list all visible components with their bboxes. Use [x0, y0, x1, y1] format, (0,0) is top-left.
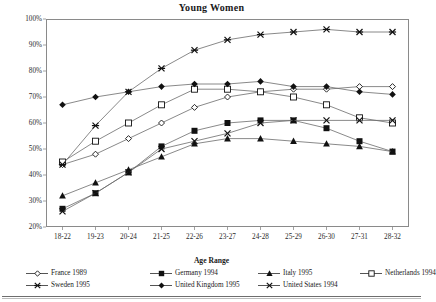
- legend-label: France 1989: [51, 269, 87, 278]
- legend-marker-filled-triangle-icon: [258, 269, 280, 278]
- legend-label: Germany 1994: [175, 269, 218, 278]
- legend-label: Netherlands 1994: [385, 269, 436, 278]
- y-tick-label: 70%: [0, 93, 42, 101]
- legend-label: United Kingdom 1995: [175, 281, 240, 290]
- y-tick-label: 100%: [0, 15, 42, 23]
- legend-marker-filled-square-icon: [150, 269, 172, 278]
- footer-rule: [2, 296, 421, 297]
- legend-label: United States 1994: [283, 281, 338, 290]
- legend-item-germany-1994[interactable]: Germany 1994: [150, 268, 218, 279]
- y-tick-label: 60%: [0, 119, 42, 127]
- y-tick-label: 50%: [0, 145, 42, 153]
- y-tick-label: 80%: [0, 67, 42, 75]
- legend-marker-open-square-icon: [360, 269, 382, 278]
- y-tick-label: 40%: [0, 171, 42, 179]
- legend-marker-x-cross-icon: [258, 281, 280, 290]
- x-axis-title: Age Range: [0, 256, 423, 265]
- legend-label: Sweden 1995: [51, 281, 90, 290]
- legend-item-united-kingdom-1995[interactable]: United Kingdom 1995: [150, 280, 240, 291]
- legend-item-united-states-1994[interactable]: United States 1994: [258, 280, 338, 291]
- legend-item-italy-1995[interactable]: Italy 1995: [258, 268, 312, 279]
- series-italy-1995: [59, 135, 396, 199]
- legend-item-france-1989[interactable]: France 1989: [26, 268, 87, 279]
- legend-marker-filled-diamond-icon: [150, 281, 172, 290]
- y-tick-label: 90%: [0, 41, 42, 49]
- footer-rule-secondary: [2, 298, 421, 299]
- chart-legend: France 1989Germany 1994Italy 1995Netherl…: [0, 268, 423, 294]
- legend-marker-open-diamond-icon: [26, 269, 48, 278]
- series-germany-1994: [60, 117, 396, 211]
- legend-item-sweden-1995[interactable]: Sweden 1995: [26, 280, 90, 291]
- y-tick-label: 30%: [0, 197, 42, 205]
- series-united-states-1994: [60, 117, 396, 214]
- series-united-kingdom-1995: [59, 78, 396, 108]
- legend-marker-star-icon: [26, 281, 48, 290]
- x-tick-label: 28-32: [370, 233, 416, 241]
- y-tick-label: 20%: [0, 223, 42, 231]
- legend-item-netherlands-1994[interactable]: Netherlands 1994: [360, 268, 436, 279]
- legend-label: Italy 1995: [283, 269, 312, 278]
